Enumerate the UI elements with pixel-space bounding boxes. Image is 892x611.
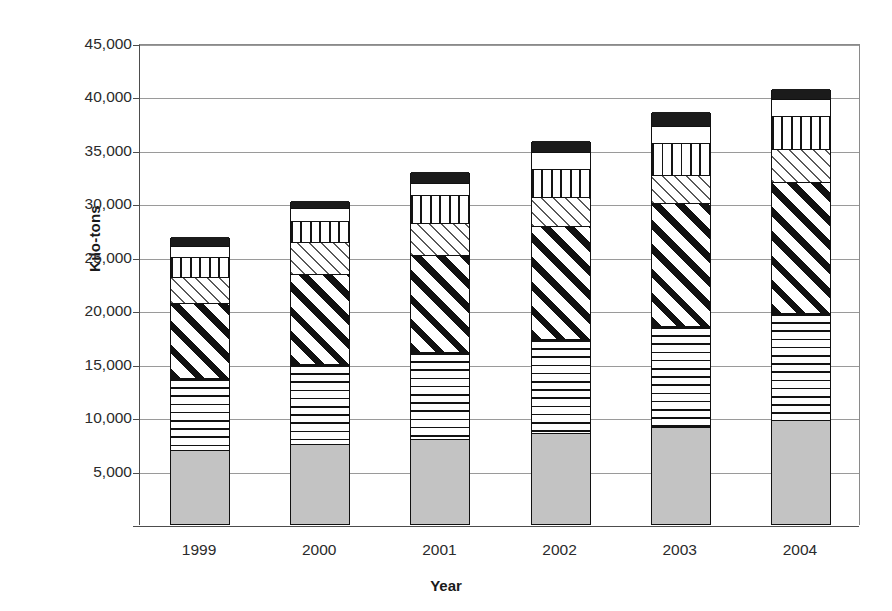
bar-segment[interactable] xyxy=(411,224,469,256)
y-axis-tick-label: 5,000 xyxy=(46,464,132,480)
x-axis-title: Year xyxy=(0,577,892,594)
y-axis-tick-mark xyxy=(133,45,140,46)
bar-segment[interactable] xyxy=(772,150,830,183)
y-axis-tick-mark xyxy=(133,312,140,313)
y-axis-tick-label: 10,000 xyxy=(46,410,132,426)
bar-segment[interactable] xyxy=(171,304,229,379)
y-axis-tick-mark xyxy=(133,98,140,99)
y-axis-tick-mark xyxy=(133,526,140,527)
y-axis-tick-label: 40,000 xyxy=(46,89,132,105)
bar-segment[interactable] xyxy=(652,127,710,144)
bar-segment[interactable] xyxy=(411,256,469,352)
bar-segment[interactable] xyxy=(411,196,469,224)
bar-segment[interactable] xyxy=(532,198,590,227)
x-axis-tick-label: 1999 xyxy=(139,541,259,559)
bar-segment[interactable] xyxy=(171,247,229,258)
axis-baseline xyxy=(140,526,859,527)
y-axis-tick-label: 25,000 xyxy=(46,250,132,266)
bar-segment[interactable] xyxy=(532,141,590,153)
bar-segment[interactable] xyxy=(652,112,710,127)
bar-segment[interactable] xyxy=(171,258,229,278)
x-axis-tick-label: 2003 xyxy=(620,541,740,559)
bar-group[interactable] xyxy=(651,44,711,525)
bar-segment[interactable] xyxy=(171,451,229,524)
bar-group[interactable] xyxy=(170,44,230,525)
bar-segment[interactable] xyxy=(772,314,830,421)
bar-group[interactable] xyxy=(531,44,591,525)
bar-segment[interactable] xyxy=(532,153,590,170)
y-axis-tick-label: 30,000 xyxy=(46,196,132,212)
bar-group[interactable] xyxy=(410,44,470,525)
x-axis-tick-label: 2002 xyxy=(500,541,620,559)
bar-group[interactable] xyxy=(290,44,350,525)
bar-segment[interactable] xyxy=(532,227,590,339)
x-axis-tick-label: 2000 xyxy=(259,541,379,559)
stacked-bar[interactable] xyxy=(410,173,470,525)
y-axis-tick-label: 35,000 xyxy=(46,143,132,159)
y-axis-tick-mark xyxy=(133,259,140,260)
bar-segment[interactable] xyxy=(411,353,469,440)
bar-segment[interactable] xyxy=(652,327,710,428)
y-axis-tick-mark xyxy=(133,152,140,153)
bar-segment[interactable] xyxy=(291,201,349,209)
bar-segment[interactable] xyxy=(772,183,830,313)
bar-segment[interactable] xyxy=(411,184,469,196)
y-axis-tick-mark xyxy=(133,473,140,474)
bar-segment[interactable] xyxy=(772,117,830,150)
bar-segment[interactable] xyxy=(411,440,469,524)
bar-group[interactable] xyxy=(771,44,831,525)
stacked-bar[interactable] xyxy=(290,202,350,525)
bar-segment[interactable] xyxy=(532,170,590,198)
y-axis-tick-mark xyxy=(133,205,140,206)
y-axis-tick-label: 45,000 xyxy=(46,36,132,52)
bar-segment[interactable] xyxy=(532,434,590,524)
bar-segment[interactable] xyxy=(772,100,830,117)
bar-segment[interactable] xyxy=(772,89,830,100)
y-axis-tick-mark xyxy=(133,419,140,420)
plot-area xyxy=(139,44,860,525)
stacked-bar-chart: Kilo-tons 5,00010,00015,00020,00025,0003… xyxy=(0,0,892,611)
bar-segment[interactable] xyxy=(171,237,229,247)
bar-segment[interactable] xyxy=(532,340,590,434)
stacked-bar[interactable] xyxy=(531,142,591,525)
bar-segment[interactable] xyxy=(291,445,349,524)
y-axis-tick-labels: 5,00010,00015,00020,00025,00030,00035,00… xyxy=(40,0,132,611)
stacked-bar[interactable] xyxy=(651,113,711,525)
bar-segment[interactable] xyxy=(291,365,349,445)
x-axis-tick-label: 2004 xyxy=(740,541,860,559)
y-axis-tick-label: 15,000 xyxy=(46,357,132,373)
bar-segment[interactable] xyxy=(291,222,349,243)
stacked-bar[interactable] xyxy=(771,90,831,525)
y-axis-tick-mark xyxy=(133,366,140,367)
bar-segment[interactable] xyxy=(652,204,710,326)
bar-segment[interactable] xyxy=(291,209,349,222)
bar-segment[interactable] xyxy=(291,275,349,365)
bar-segment[interactable] xyxy=(652,176,710,204)
bars-layer xyxy=(140,45,859,525)
bar-segment[interactable] xyxy=(772,421,830,524)
x-axis-tick-label: 2001 xyxy=(379,541,499,559)
bar-segment[interactable] xyxy=(171,379,229,451)
stacked-bar[interactable] xyxy=(170,238,230,525)
bar-segment[interactable] xyxy=(411,172,469,184)
bar-segment[interactable] xyxy=(652,428,710,524)
y-axis-tick-label: 20,000 xyxy=(46,303,132,319)
bar-segment[interactable] xyxy=(291,243,349,274)
bar-segment[interactable] xyxy=(652,144,710,176)
bar-segment[interactable] xyxy=(171,278,229,303)
